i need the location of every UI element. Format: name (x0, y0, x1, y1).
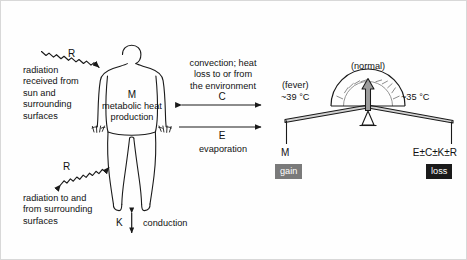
fever-temperature: ~39 °C (281, 92, 309, 103)
evaporation-symbol: E (209, 130, 235, 141)
cold-temperature: ~35 °C (401, 92, 429, 103)
left-pan-symbol: M (281, 147, 289, 158)
convection-caption: convection; heat loss to or from the env… (173, 58, 273, 92)
metabolic-symbol: M (119, 89, 145, 100)
sweat-marks-icon (92, 126, 172, 132)
balance-fulcrum (362, 111, 374, 125)
evaporation-label: evaporation (181, 144, 265, 155)
right-pan-symbol: E±C±K±R (379, 147, 457, 158)
loss-badge: loss (426, 164, 452, 179)
radiation-in-symbol: R (68, 48, 75, 59)
balance-scale (285, 69, 453, 144)
conduction-label: conduction (143, 218, 187, 229)
gain-badge: gain (275, 164, 302, 179)
dial-normal-label: (normal) (338, 61, 398, 72)
convection-symbol: C (209, 91, 235, 102)
radiation-out-caption: radiation to and from surrounding surfac… (23, 193, 119, 227)
radiation-out-symbol: R (63, 161, 70, 172)
fever-label: (fever) (282, 80, 309, 91)
metabolic-caption: metabolic heat production (84, 101, 180, 124)
conduction-symbol: K (116, 217, 123, 228)
heat-balance-figure: R radiation received from sun and surrou… (0, 0, 467, 260)
human-body-silhouette (97, 45, 166, 210)
